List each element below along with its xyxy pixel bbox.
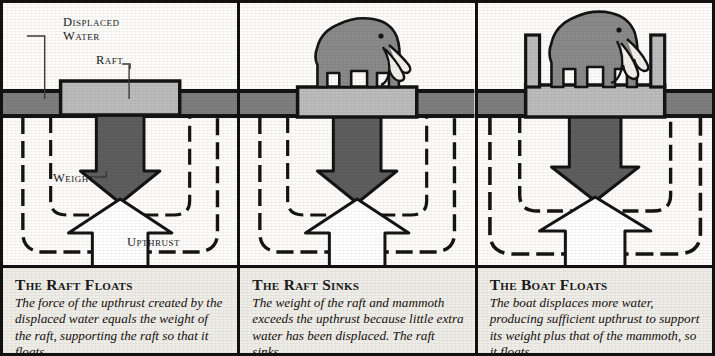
label-displaced-water-line1: Displaced (63, 15, 120, 29)
mammoth (316, 18, 411, 87)
label-displaced-water-line2: Water (63, 29, 100, 43)
weight-arrow (551, 115, 638, 201)
raft-slab (298, 87, 417, 117)
panel-raft-floats: Displaced Water Raft Weight Upthrust The… (3, 3, 237, 353)
panel-boat-floats: The Boat Floats The boat displaces more … (475, 3, 712, 353)
panel-raft-sinks: The Raft Sinks The weight of the raft an… (237, 3, 474, 353)
caption-boat-floats: The Boat Floats The boat displaces more … (478, 265, 712, 353)
caption-body: The boat displaces more water, producing… (490, 295, 702, 353)
upthrust-arrow (306, 199, 409, 271)
label-weight: Weight (53, 171, 95, 185)
caption-title: The Raft Sinks (252, 276, 464, 293)
scene-raft-floats: Displaced Water Raft Weight Upthrust (3, 3, 237, 271)
raft-floats-illustration (3, 3, 237, 271)
mammoth-eye (379, 33, 384, 38)
caption-title: The Boat Floats (490, 276, 702, 293)
label-displaced-water: Displaced Water (63, 15, 120, 44)
caption-raft-sinks: The Raft Sinks The weight of the raft an… (240, 265, 474, 353)
figure-root: Displaced Water Raft Weight Upthrust The… (0, 0, 715, 356)
boat-wall-right (650, 35, 664, 87)
caption-body: The weight of the raft and mammoth excee… (252, 295, 464, 353)
raft-sinks-illustration (240, 3, 474, 271)
label-raft: Raft (96, 53, 123, 67)
mammoth (549, 12, 648, 87)
caption-raft-floats: The Raft Floats The force of the upthrus… (3, 265, 237, 353)
upthrust-arrow (539, 197, 650, 271)
mammoth-eye (616, 27, 621, 32)
label-upthrust: Upthrust (127, 235, 180, 249)
caption-body: The force of the upthrust created by the… (15, 295, 227, 353)
boat-floats-illustration (478, 3, 712, 271)
panel-row: Displaced Water Raft Weight Upthrust The… (3, 3, 712, 353)
boat-hull (525, 85, 664, 117)
weight-arrow (318, 115, 397, 203)
scene-boat-floats (478, 3, 712, 271)
caption-title: The Raft Floats (15, 276, 227, 293)
boat-wall-left (525, 35, 539, 87)
scene-raft-sinks (240, 3, 474, 271)
weight-arrow (80, 115, 159, 203)
raft-slab (61, 81, 180, 115)
